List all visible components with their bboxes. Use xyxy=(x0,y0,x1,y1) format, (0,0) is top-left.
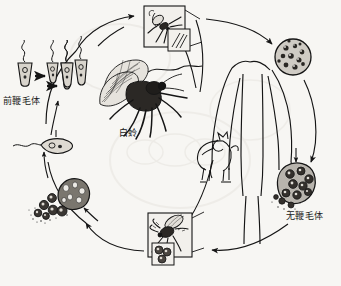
infected-cell-top-right xyxy=(275,39,311,75)
cycle-arrow-bottom-right xyxy=(212,224,288,250)
label-promastigote: 前鞭毛体 xyxy=(3,96,41,106)
sandfly-inset-bottom xyxy=(148,212,204,265)
single-promastigote xyxy=(13,139,73,154)
ruptured-macrophage xyxy=(29,179,90,224)
leishmania-life-cycle-figure: 前鞭毛体 白蛉 无鞭毛体 xyxy=(0,0,341,286)
leader-promastigote xyxy=(98,27,124,46)
label-sandfly: 白蛉 xyxy=(119,128,138,138)
arrow-into-ruptured-macrophage xyxy=(84,208,98,221)
infected-cell-bottom-right xyxy=(271,163,315,212)
sandfly-illustration xyxy=(100,60,202,139)
human-host xyxy=(211,61,293,244)
arrow-to-promastigote-series xyxy=(51,101,58,135)
life-cycle-diagram-artwork xyxy=(0,0,341,286)
sandfly-inset-top xyxy=(144,6,202,51)
cycle-arrow-down-right xyxy=(304,80,316,162)
cycle-arrow-to-infected-cell xyxy=(206,19,272,44)
arrow-inset-down-2 xyxy=(196,20,203,92)
cycle-arc-left xyxy=(46,51,76,124)
promastigote-series xyxy=(18,36,87,89)
cycle-arrow-bottom-left xyxy=(86,223,144,251)
label-amastigote: 无鞭毛体 xyxy=(286,211,324,221)
arrow-macrophage-to-promastigote xyxy=(44,152,48,178)
